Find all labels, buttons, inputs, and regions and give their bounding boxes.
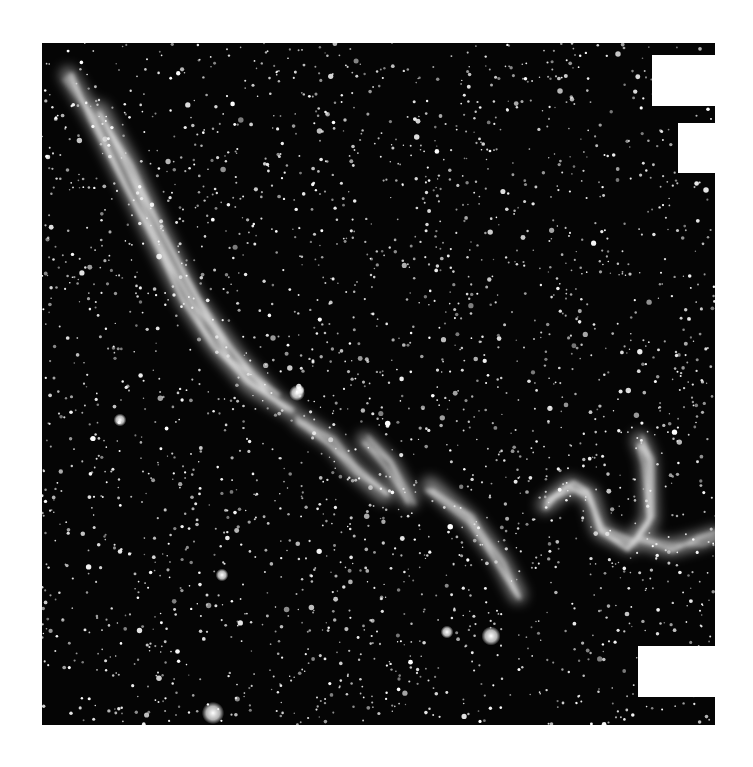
cutout-top-2 [678, 123, 715, 173]
cutout-top-1 [652, 55, 715, 106]
starfield [42, 43, 715, 725]
cutout-bottom [638, 646, 715, 697]
nebula-photograph [42, 43, 715, 725]
